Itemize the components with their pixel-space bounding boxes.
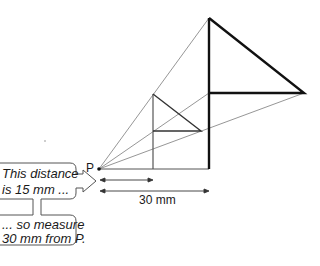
- dimension-arrow-15mm: [100, 178, 153, 182]
- original-shape: [153, 94, 201, 169]
- callout-bottom-line2: 30 mm from P.: [2, 231, 86, 246]
- small-triangle: [153, 94, 201, 131]
- callout-bottom-line1: ... so measure: [2, 217, 84, 232]
- callout-top-line1: This distance: [2, 166, 79, 181]
- enlargement-diagram: P 30 mm This distance is 15 mm ... ... s…: [0, 0, 320, 266]
- centre-point-p: [97, 167, 101, 171]
- stray-dot: [44, 140, 45, 141]
- large-triangle: [209, 18, 304, 93]
- point-label: P: [86, 161, 94, 175]
- callout-top-line2: is 15 mm ...: [2, 182, 69, 197]
- dimension-label: 30 mm: [139, 193, 176, 207]
- ray-to-top-vertex: [99, 18, 209, 169]
- enlarged-shape: [209, 18, 304, 169]
